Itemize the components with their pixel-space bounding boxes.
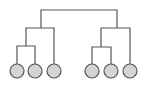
leaf-node: [28, 64, 42, 78]
leaf-node: [104, 64, 118, 78]
dendrogram-links: [17, 10, 130, 64]
leaf-node: [10, 64, 24, 78]
leaf-node: [123, 64, 137, 78]
leaf-node: [85, 64, 99, 78]
link-cluster-1-2: [17, 46, 35, 64]
dendrogram: [0, 0, 150, 85]
leaf-node: [47, 64, 61, 78]
link-cluster-4-5: [92, 47, 111, 64]
dendrogram-leaves: [10, 64, 137, 78]
link-root: [41, 10, 117, 28]
link-cluster-4-5-6: [101, 28, 130, 64]
